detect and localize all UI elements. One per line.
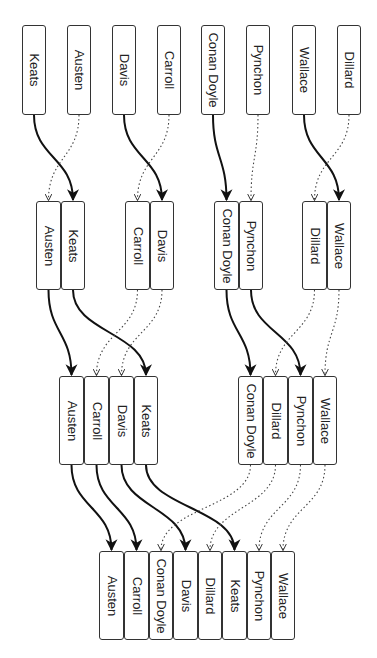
node-box: Davis xyxy=(150,201,174,290)
solid-edge xyxy=(72,465,112,550)
node-box: Dillard xyxy=(302,201,327,290)
node-box: Dillard xyxy=(198,551,222,640)
node-box: Dillard xyxy=(263,376,288,465)
node-label: Wallace xyxy=(332,223,347,269)
node-box: Pynchon xyxy=(247,551,271,640)
node-label: Carroll xyxy=(89,401,104,439)
node-box: Conan Doyle xyxy=(201,25,225,115)
node-label: Dillard xyxy=(268,402,283,439)
node-box: Conan Doyle xyxy=(214,201,239,290)
node-label: Davis xyxy=(155,229,170,262)
dotted-edge xyxy=(276,290,315,375)
node-box: Austen xyxy=(99,551,124,640)
node-label: Pynchon xyxy=(293,395,308,446)
node-box: Wallace xyxy=(292,25,316,115)
node-box: Austen xyxy=(36,201,61,290)
dotted-edge xyxy=(315,115,350,200)
node-label: Austen xyxy=(64,400,79,440)
node-label: Davis xyxy=(117,54,132,87)
node-label: Dillard xyxy=(203,577,218,614)
dotted-edge xyxy=(325,290,339,375)
node-label: Dillard xyxy=(342,52,357,89)
solid-edge xyxy=(122,465,186,550)
node-box: Keats xyxy=(61,201,85,290)
dotted-edge xyxy=(259,465,301,550)
dotted-edge xyxy=(251,115,258,200)
node-label: Wallace xyxy=(297,47,312,93)
node-label: Keats xyxy=(139,404,154,437)
solid-edge xyxy=(146,465,235,550)
node-label: Wallace xyxy=(276,573,291,619)
node-box: Keats xyxy=(222,551,247,640)
dotted-edge xyxy=(97,290,138,375)
node-label: Conan Doyle xyxy=(206,32,221,107)
solid-edge xyxy=(97,465,137,550)
node-label: Pynchon xyxy=(252,570,267,621)
solid-edge xyxy=(73,290,146,375)
node-box: Pynchon xyxy=(246,25,270,115)
dotted-edge xyxy=(161,465,251,550)
node-box: Davis xyxy=(112,25,136,115)
solid-edge xyxy=(34,115,73,200)
node-box: Wallace xyxy=(327,201,351,290)
node-box: Conan Doyle xyxy=(149,551,173,640)
solid-edge xyxy=(304,115,339,200)
node-label: Pynchon xyxy=(244,220,259,271)
node-box: Keats xyxy=(22,25,46,115)
node-box: Davis xyxy=(109,376,134,465)
node-box: Wallace xyxy=(271,551,295,640)
node-label: Carroll xyxy=(162,51,177,89)
node-box: Pynchon xyxy=(239,201,263,290)
node-label: Austen xyxy=(104,575,119,615)
node-label: Austen xyxy=(72,50,87,90)
node-box: Carroll xyxy=(84,376,109,465)
node-box: Wallace xyxy=(313,376,337,465)
node-label: Conan Doyle xyxy=(154,558,169,633)
node-label: Dillard xyxy=(307,227,322,264)
node-box: Dillard xyxy=(337,25,361,115)
node-label: Keats xyxy=(66,229,81,262)
dotted-edge xyxy=(283,465,325,550)
node-label: Carroll xyxy=(130,226,145,264)
solid-edge xyxy=(251,290,301,375)
solid-edge xyxy=(124,115,162,200)
node-label: Keats xyxy=(27,53,42,86)
node-label: Davis xyxy=(178,579,193,612)
node-box: Carroll xyxy=(125,201,150,290)
solid-edge xyxy=(213,115,227,200)
node-box: Carroll xyxy=(124,551,149,640)
node-box: Carroll xyxy=(157,25,181,115)
solid-edge xyxy=(49,290,72,375)
dotted-edge xyxy=(210,465,276,550)
node-label: Wallace xyxy=(318,398,333,444)
node-box: Keats xyxy=(134,376,158,465)
dotted-edge xyxy=(122,290,163,375)
solid-edge xyxy=(227,290,251,375)
node-box: Davis xyxy=(173,551,198,640)
node-label: Carroll xyxy=(129,576,144,614)
node-label: Keats xyxy=(227,579,242,612)
node-label: Conan Doyle xyxy=(243,383,258,458)
node-box: Austen xyxy=(59,376,84,465)
node-label: Pynchon xyxy=(251,45,266,96)
node-label: Conan Doyle xyxy=(219,208,234,283)
node-box: Austen xyxy=(67,25,91,115)
node-label: Austen xyxy=(41,225,56,265)
node-box: Pynchon xyxy=(288,376,313,465)
node-label: Davis xyxy=(114,404,129,437)
node-box: Conan Doyle xyxy=(238,376,263,465)
